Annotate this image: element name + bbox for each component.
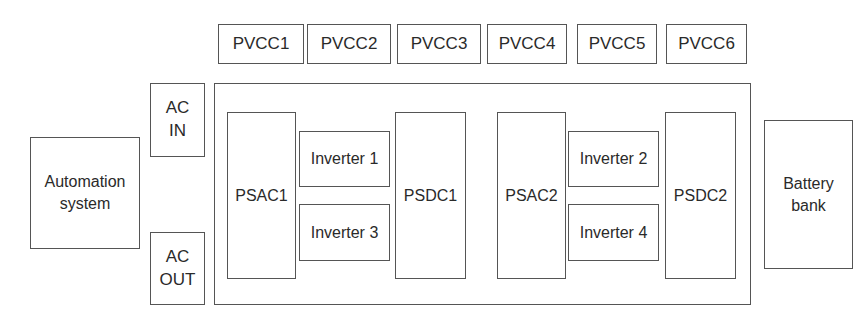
automation-system-label: Automation system <box>45 171 126 214</box>
inverter3-label: Inverter 3 <box>311 222 379 244</box>
inverter1-label: Inverter 1 <box>311 148 379 170</box>
psac2-box: PSAC2 <box>497 112 566 279</box>
psac2-label: PSAC2 <box>505 185 557 207</box>
psdc2-box: PSDC2 <box>665 112 736 279</box>
pvcc6-label: PVCC6 <box>678 33 735 56</box>
inverter2-label: Inverter 2 <box>580 148 648 170</box>
ac-in-label: AC IN <box>166 97 190 143</box>
psdc2-label: PSDC2 <box>674 185 727 207</box>
pvcc3-box: PVCC3 <box>397 24 481 64</box>
inverter4-label: Inverter 4 <box>580 222 648 244</box>
ac-in-box: AC IN <box>150 83 205 157</box>
battery-bank-label: Battery bank <box>783 173 834 216</box>
battery-bank-box: Battery bank <box>764 120 853 269</box>
psdc1-box: PSDC1 <box>395 112 466 279</box>
inverter1-box: Inverter 1 <box>299 131 390 187</box>
pvcc1-box: PVCC1 <box>218 24 304 64</box>
pvcc3-label: PVCC3 <box>411 33 468 56</box>
inverter2-box: Inverter 2 <box>568 131 659 187</box>
inverter4-box: Inverter 4 <box>568 204 659 261</box>
pvcc2-box: PVCC2 <box>307 24 391 64</box>
pvcc2-label: PVCC2 <box>321 33 378 56</box>
psac1-label: PSAC1 <box>235 185 287 207</box>
automation-system-box: Automation system <box>30 137 140 249</box>
inverter3-box: Inverter 3 <box>299 204 390 261</box>
pvcc4-box: PVCC4 <box>487 24 567 64</box>
pvcc4-label: PVCC4 <box>499 33 556 56</box>
ac-out-label: AC OUT <box>160 246 196 292</box>
pvcc5-label: PVCC5 <box>589 33 646 56</box>
pvcc5-box: PVCC5 <box>577 24 657 64</box>
pvcc1-label: PVCC1 <box>233 33 290 56</box>
ac-out-box: AC OUT <box>150 232 205 305</box>
pvcc6-box: PVCC6 <box>666 24 747 64</box>
psac1-box: PSAC1 <box>227 112 296 279</box>
psdc1-label: PSDC1 <box>404 185 457 207</box>
